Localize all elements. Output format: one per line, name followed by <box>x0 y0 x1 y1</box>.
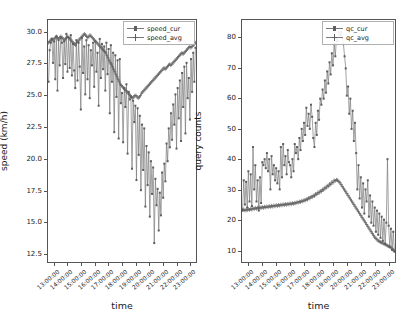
xtick-mark <box>375 263 376 266</box>
marker-square <box>300 149 302 151</box>
marker-square <box>254 164 256 166</box>
marker-square <box>374 207 376 209</box>
marker-square <box>331 52 333 54</box>
marker-square <box>357 164 359 166</box>
marker-square <box>283 164 285 166</box>
marker-square <box>293 170 295 172</box>
marker-square <box>318 119 320 121</box>
marker-square <box>366 201 368 203</box>
marker-square <box>281 176 283 178</box>
marker-square <box>373 225 375 227</box>
legend-label: qc_cur <box>346 25 367 33</box>
marker-square <box>296 146 298 148</box>
marker-square <box>359 197 361 199</box>
series-layer-right <box>242 20 395 262</box>
marker-square <box>364 188 366 190</box>
marker-square <box>249 201 251 203</box>
marker-square <box>345 67 347 69</box>
marker-square <box>257 179 259 181</box>
series-line-qc_cur <box>243 32 395 251</box>
marker-square <box>280 146 282 148</box>
legend-marker-icon <box>326 24 343 33</box>
marker-square <box>282 143 284 145</box>
xtick-mark <box>389 263 390 266</box>
marker-square <box>376 210 378 212</box>
marker-square <box>286 173 288 175</box>
ytick-mark <box>238 190 241 191</box>
marker-square <box>291 158 293 160</box>
marker-square <box>380 237 382 239</box>
marker-square <box>304 134 306 136</box>
marker-square <box>245 181 247 183</box>
marker-square <box>386 158 388 160</box>
marker-square <box>351 128 353 130</box>
legend-entry-qc_cur[interactable]: qc_cur <box>326 24 390 33</box>
ytick-label: 60 <box>209 94 236 102</box>
ytick-label: 80 <box>209 33 236 41</box>
marker-square <box>327 83 329 85</box>
marker-square <box>297 158 299 160</box>
marker-square <box>367 179 369 181</box>
xtick-mark <box>361 263 362 266</box>
subplot-query-counts: 1020304050607080query counts13:00:0014:0… <box>0 0 409 320</box>
marker-square <box>312 137 314 139</box>
ytick-label: 20 <box>209 216 236 224</box>
marker-square <box>287 149 289 151</box>
marker-square <box>353 140 355 142</box>
marker-square <box>265 167 267 169</box>
marker-square <box>385 222 387 224</box>
ytick-mark <box>238 220 241 221</box>
marker-square <box>390 228 392 230</box>
marker-square <box>344 55 346 57</box>
marker-square <box>355 152 357 154</box>
legend-right[interactable]: qc_curqc_avg <box>322 21 394 45</box>
marker-square <box>356 188 358 190</box>
legend-entry-qc_avg[interactable]: qc_avg <box>326 33 390 42</box>
marker-square <box>348 113 350 115</box>
marker-square <box>309 128 311 130</box>
marker-square <box>261 161 263 163</box>
marker-square <box>262 164 264 166</box>
marker-square <box>279 188 281 190</box>
ytick-label: 70 <box>209 64 236 72</box>
marker-square <box>273 164 275 166</box>
marker-square <box>347 86 349 88</box>
marker-square <box>310 104 312 106</box>
marker-square <box>354 122 356 124</box>
marker-square <box>325 92 327 94</box>
marker-square <box>269 188 271 190</box>
marker-square <box>320 104 322 106</box>
marker-square <box>253 188 255 190</box>
xtick-mark <box>276 263 277 266</box>
ytick-mark <box>238 159 241 160</box>
marker-square <box>369 194 371 196</box>
marker-square <box>349 98 351 100</box>
series-qc_avg <box>242 178 395 253</box>
marker-square <box>275 167 277 169</box>
marker-square <box>311 116 313 118</box>
marker-square <box>383 219 385 221</box>
marker-square <box>271 155 273 157</box>
marker-square <box>362 182 364 184</box>
legend-marker-icon <box>326 33 343 42</box>
marker-square <box>375 231 377 233</box>
ytick-mark <box>238 37 241 38</box>
ytick-mark <box>238 251 241 252</box>
ytick-label: 40 <box>209 155 236 163</box>
marker-square <box>305 107 307 109</box>
marker-square <box>274 179 276 181</box>
marker-square <box>317 110 319 112</box>
marker-square <box>377 234 379 236</box>
marker-square <box>324 80 326 82</box>
xtick-mark <box>290 263 291 266</box>
marker-square <box>278 170 280 172</box>
marker-square <box>388 225 390 227</box>
marker-square <box>289 164 291 166</box>
marker-square <box>251 205 253 207</box>
ytick-label: 30 <box>209 186 236 194</box>
marker-square <box>272 173 274 175</box>
xtick-mark <box>347 263 348 266</box>
figure-canvas: 12.515.017.520.022.525.027.530.0speed (k… <box>0 0 409 320</box>
marker-square <box>308 113 310 115</box>
series-qc_cur <box>242 31 395 252</box>
